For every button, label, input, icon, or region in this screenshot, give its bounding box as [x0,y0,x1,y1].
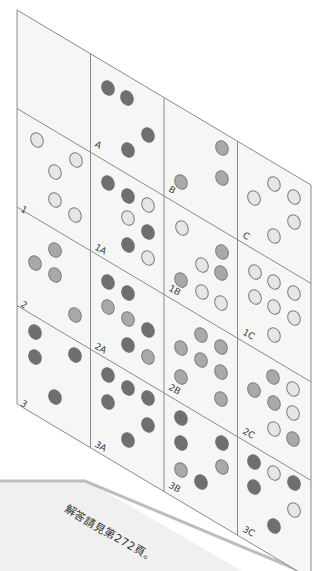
dot-grid-puzzle: ABC11A1B1C22A2B2C33A3B3C [0,0,327,571]
puzzle-figure: ABC11A1B1C22A2B2C33A3B3C 解答請見第272頁。 [0,0,327,571]
